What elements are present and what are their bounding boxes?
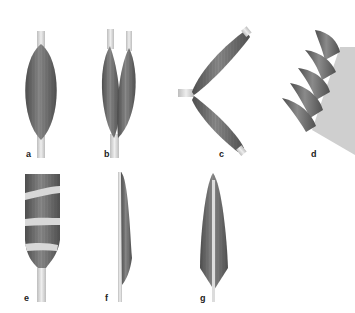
panel-d-serrated-muscle [282, 30, 355, 155]
panel-label-d: d [311, 150, 317, 159]
muscle-types-figure [0, 0, 355, 313]
panel-label-e: e [24, 294, 29, 303]
panel-label-b: b [104, 150, 110, 159]
panel-g-bipennate-muscle [200, 173, 228, 302]
panel-a-fusiform-muscle [25, 31, 57, 158]
panel-label-a: a [26, 150, 31, 159]
panel-c-two-bellied-muscle [178, 26, 252, 156]
panel-label-f: f [105, 294, 108, 303]
panel-label-c: c [219, 150, 224, 159]
panel-label-g: g [200, 294, 206, 303]
panel-f-unipennate-muscle [118, 172, 132, 302]
panel-b-two-headed-muscle [102, 29, 136, 158]
panel-e-intersected-muscle [25, 174, 60, 302]
